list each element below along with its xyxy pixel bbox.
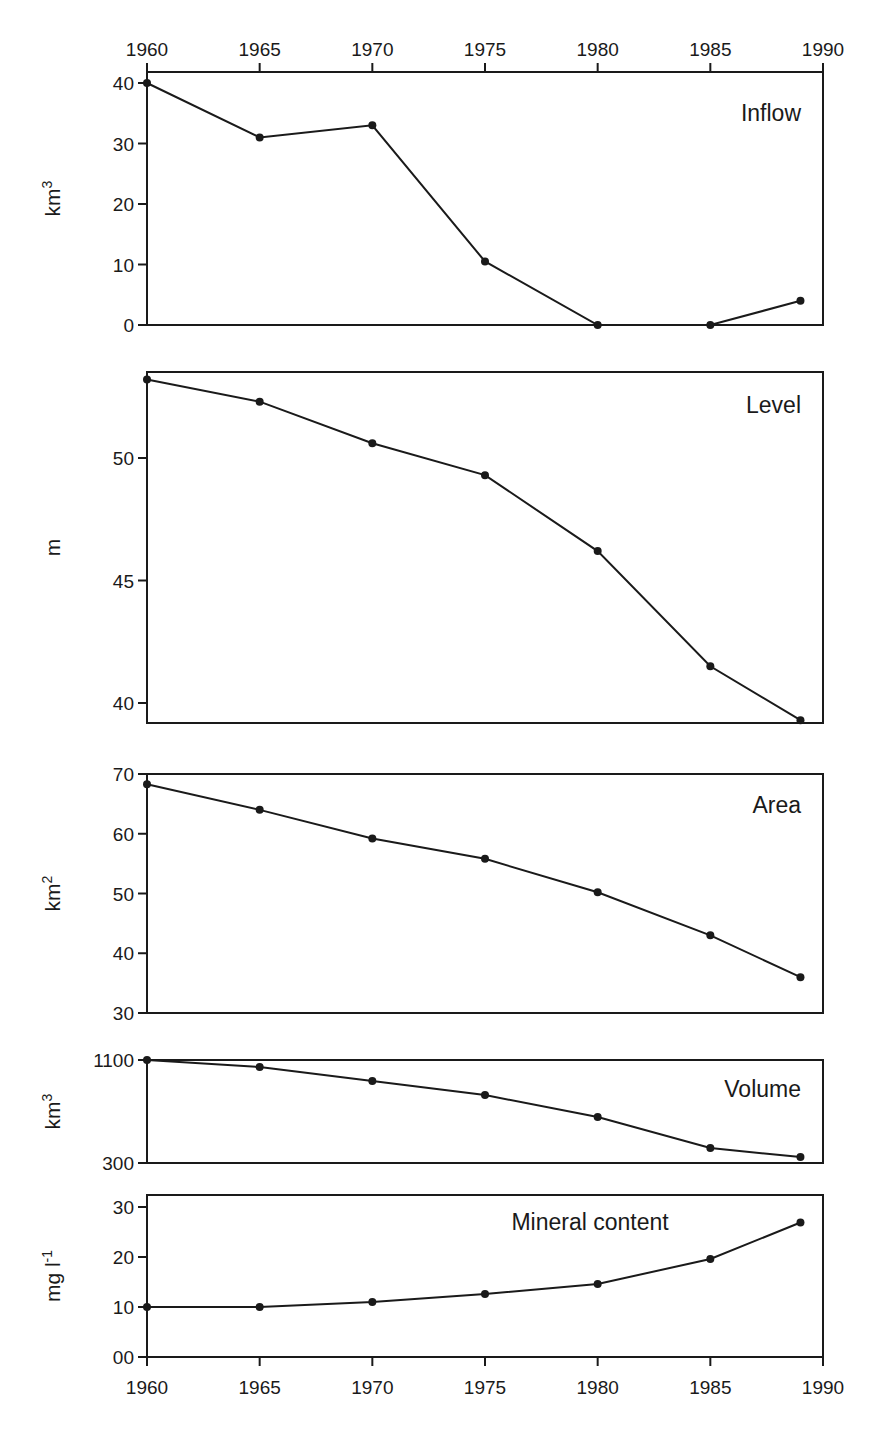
top-x-tick-label: 1990 [802, 39, 844, 60]
panel-frame [147, 72, 823, 325]
data-point [368, 1298, 376, 1306]
data-point [368, 835, 376, 843]
data-point [143, 1056, 151, 1064]
data-point [368, 121, 376, 129]
y-unit-base: mg l [41, 1262, 64, 1302]
data-point [796, 716, 804, 724]
data-point [256, 806, 264, 814]
panel-title: Area [752, 792, 801, 818]
y-unit-base: km [41, 883, 64, 911]
y-unit-base: km [41, 1101, 64, 1129]
data-point [143, 79, 151, 87]
y-unit-superscript: -1 [39, 1250, 55, 1263]
data-point [594, 1280, 602, 1288]
data-point [481, 855, 489, 863]
data-point [143, 1303, 151, 1311]
bottom-x-tick-label: 1975 [464, 1377, 506, 1398]
multi-panel-line-chart: 1960196519701975198019851990010203040km3… [0, 0, 882, 1438]
data-point [143, 780, 151, 788]
panel-frame [147, 774, 823, 1013]
y-axis-unit-label: km3 [39, 1093, 64, 1129]
series-line [147, 83, 800, 325]
panel-title: Level [746, 392, 801, 418]
y-tick-label: 40 [113, 73, 134, 94]
panel-title: Volume [724, 1076, 801, 1102]
bottom-x-axis: 1960196519701975198019851990 [126, 1357, 844, 1398]
data-point [481, 1091, 489, 1099]
panel-frame [147, 1195, 823, 1357]
y-axis-unit-label: mg l-1 [39, 1250, 64, 1302]
y-tick-label: 30 [113, 1003, 134, 1024]
data-point [706, 662, 714, 670]
y-unit-superscript: 2 [39, 875, 55, 883]
y-tick-label: 50 [113, 884, 134, 905]
y-tick-label: 10 [113, 255, 134, 276]
panel-area: 3040506070km2Area [39, 764, 823, 1024]
data-point [796, 1153, 804, 1161]
y-tick-label: 70 [113, 764, 134, 785]
data-point [594, 1113, 602, 1121]
y-unit-base: m [41, 539, 64, 557]
data-point [706, 1144, 714, 1152]
y-tick-label: 00 [113, 1347, 134, 1368]
panel-inflow: 010203040km3Inflow [39, 72, 823, 336]
data-point [796, 1219, 804, 1227]
y-unit-base: km [41, 188, 64, 216]
data-point [256, 398, 264, 406]
bottom-x-tick-label: 1985 [689, 1377, 731, 1398]
y-tick-label: 40 [113, 693, 134, 714]
data-point [796, 973, 804, 981]
top-x-tick-label: 1970 [351, 39, 393, 60]
data-point [594, 888, 602, 896]
y-tick-label: 20 [113, 1247, 134, 1268]
top-x-tick-label: 1980 [577, 39, 619, 60]
data-point [143, 376, 151, 384]
bottom-x-tick-label: 1970 [351, 1377, 393, 1398]
panel-frame [147, 1060, 823, 1163]
top-x-tick-label: 1975 [464, 39, 506, 60]
y-tick-label: 30 [113, 134, 134, 155]
y-tick-label: 45 [113, 571, 134, 592]
data-point [368, 439, 376, 447]
top-x-axis: 1960196519701975198019851990 [126, 39, 844, 72]
bottom-x-tick-label: 1980 [577, 1377, 619, 1398]
series-line [147, 380, 800, 721]
y-tick-label: 30 [113, 1197, 134, 1218]
y-tick-label: 20 [113, 194, 134, 215]
y-tick-label: 300 [102, 1153, 134, 1174]
y-unit-superscript: 3 [39, 1093, 55, 1101]
top-x-tick-label: 1960 [126, 39, 168, 60]
bottom-x-tick-label: 1990 [802, 1377, 844, 1398]
data-point [706, 321, 714, 329]
bottom-x-tick-label: 1965 [239, 1377, 281, 1398]
series-line [147, 1223, 800, 1308]
y-tick-label: 50 [113, 448, 134, 469]
data-point [256, 1303, 264, 1311]
data-point [594, 321, 602, 329]
data-point [481, 257, 489, 265]
y-unit-superscript: 3 [39, 180, 55, 188]
data-point [706, 931, 714, 939]
bottom-x-tick-label: 1960 [126, 1377, 168, 1398]
panel-level: 404550mLevel [41, 372, 823, 724]
y-tick-label: 1100 [93, 1050, 134, 1071]
panel-title: Mineral content [511, 1209, 669, 1235]
panel-title: Inflow [741, 100, 801, 126]
series-line [147, 784, 800, 977]
data-point [256, 1063, 264, 1071]
data-point [594, 547, 602, 555]
panel-volume: 3001100km3Volume [39, 1050, 823, 1174]
data-point [256, 133, 264, 141]
data-point [368, 1077, 376, 1085]
panel-mineral-content: 00102030mg l-1Mineral content [39, 1195, 823, 1368]
y-tick-label: 60 [113, 824, 134, 845]
y-tick-label: 0 [123, 315, 134, 336]
data-point [481, 1290, 489, 1298]
y-axis-unit-label: km3 [39, 180, 64, 216]
data-point [481, 471, 489, 479]
top-x-tick-label: 1965 [239, 39, 281, 60]
y-axis-unit-label: m [41, 539, 64, 557]
series-line [147, 1060, 800, 1157]
data-point [706, 1255, 714, 1263]
y-tick-label: 10 [113, 1297, 134, 1318]
